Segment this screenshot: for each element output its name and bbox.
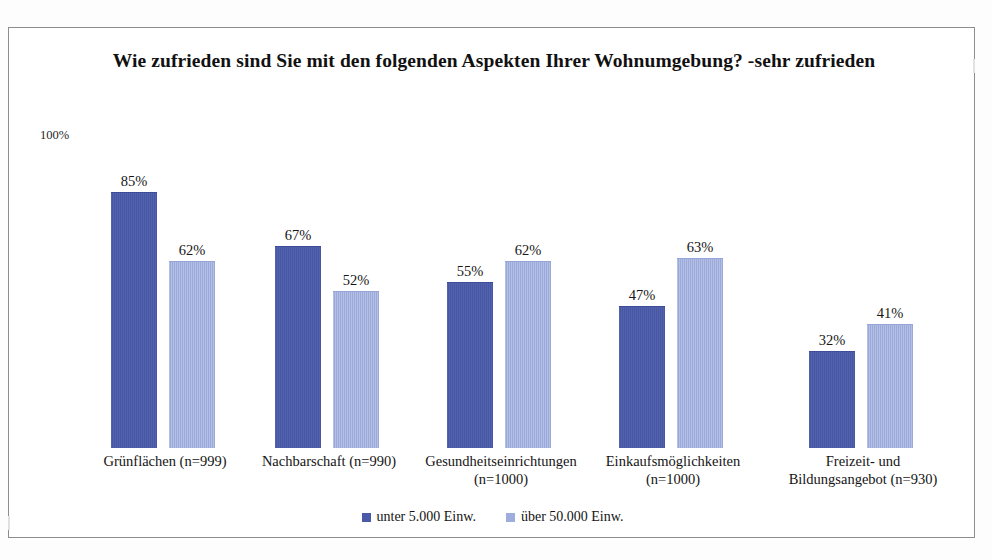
x-axis-category-label: Nachbarschaft (n=990) xyxy=(231,452,427,470)
bar-value-label: 52% xyxy=(319,272,393,289)
bar-value-label: 55% xyxy=(433,263,507,280)
bar-group: 85% 62% xyxy=(111,148,219,448)
bar-series-a[interactable] xyxy=(619,306,665,448)
legend-entry-series-a[interactable]: unter 5.000 Einw. xyxy=(362,509,476,525)
bar-series-b[interactable] xyxy=(333,291,379,448)
bar-series-a[interactable] xyxy=(447,282,493,448)
bar-value-label: 41% xyxy=(853,305,927,322)
cat-line: Gesundheitseinrichtungen xyxy=(403,452,599,470)
legend-label: über 50.000 Einw. xyxy=(521,509,624,525)
bar-value-label: 47% xyxy=(605,287,679,304)
plot-area: 85% 62% 67% 52% xyxy=(9,28,976,539)
chart-frame: Wie zufrieden sind Sie mit den folgenden… xyxy=(8,27,975,538)
cat-line: Einkaufsmöglichkeiten xyxy=(575,452,771,470)
bar-group: 55% 62% xyxy=(447,148,555,448)
bar-value-label: 62% xyxy=(491,242,565,259)
chart-legend: unter 5.000 Einw. über 50.000 Einw. xyxy=(9,509,976,525)
cat-line: Freizeit- und xyxy=(765,452,961,470)
cat-line: Nachbarschaft (n=990) xyxy=(231,452,427,470)
x-axis-category-label: Freizeit- und Bildungsangebot (n=930) xyxy=(765,452,961,488)
bar-series-b[interactable] xyxy=(867,324,913,448)
bar-series-a[interactable] xyxy=(111,192,157,448)
bar-group: 32% 41% xyxy=(809,148,917,448)
legend-swatch-icon xyxy=(362,513,371,522)
cat-line: Bildungsangebot (n=930) xyxy=(765,470,961,488)
bar-group: 47% 63% xyxy=(619,148,727,448)
bar-value-label: 85% xyxy=(97,173,171,190)
bar-value-label: 32% xyxy=(795,332,869,349)
cat-line: (n=1000) xyxy=(403,470,599,488)
bar-value-label: 62% xyxy=(155,242,229,259)
bar-group: 67% 52% xyxy=(275,148,383,448)
bar-series-b[interactable] xyxy=(677,258,723,448)
x-axis-category-label: Gesundheitseinrichtungen (n=1000) xyxy=(403,452,599,488)
bar-value-label: 63% xyxy=(663,239,737,256)
bar-series-a[interactable] xyxy=(275,246,321,448)
bar-series-b[interactable] xyxy=(505,261,551,448)
bar-series-b[interactable] xyxy=(169,261,215,448)
legend-swatch-icon xyxy=(506,513,515,522)
legend-label: unter 5.000 Einw. xyxy=(377,509,476,525)
legend-entry-series-b[interactable]: über 50.000 Einw. xyxy=(506,509,624,525)
bar-value-label: 67% xyxy=(261,227,335,244)
cat-line: (n=1000) xyxy=(575,470,771,488)
x-axis-category-label: Einkaufsmöglichkeiten (n=1000) xyxy=(575,452,771,488)
bar-series-a[interactable] xyxy=(809,351,855,448)
scanned-page-background: Wie zufrieden sind Sie mit den folgenden… xyxy=(0,0,992,560)
